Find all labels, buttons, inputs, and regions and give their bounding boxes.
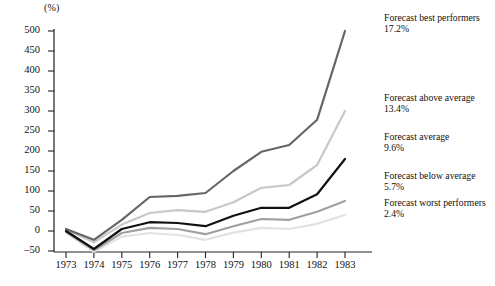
- legend-item-value: 5.7%: [384, 181, 475, 192]
- legend-item-value: 2.4%: [384, 208, 486, 219]
- legend-item-value: 9.6%: [384, 142, 449, 153]
- series-line-0: [66, 31, 345, 240]
- y-axis-ticks: [48, 31, 54, 251]
- legend-item: Forecast worst performers2.4%: [384, 197, 486, 220]
- legend-item: Forecast best performers17.2%: [384, 12, 480, 35]
- y-axis-tick-label: 0: [6, 224, 40, 235]
- y-axis-tick-label: 450: [6, 44, 40, 55]
- legend-item-label: Forecast best performers: [384, 12, 480, 23]
- y-axis-tick-label: 250: [6, 124, 40, 135]
- y-axis-tick-label: –50: [6, 244, 40, 255]
- chart-axes: [54, 29, 372, 252]
- y-axis-tick-label: 350: [6, 84, 40, 95]
- y-axis-tick-label: 200: [6, 144, 40, 155]
- y-axis-tick-label: 500: [6, 24, 40, 35]
- series-line-2: [66, 159, 345, 249]
- legend-item-label: Forecast average: [384, 131, 449, 142]
- legend-item-label: Forecast below average: [384, 170, 475, 181]
- legend-item-value: 13.4%: [384, 103, 475, 114]
- legend-item-label: Forecast worst performers: [384, 197, 486, 208]
- legend-item: Forecast below average5.7%: [384, 170, 475, 193]
- y-axis-tick-label: 100: [6, 184, 40, 195]
- x-axis-ticks: [66, 252, 345, 258]
- legend-item: Forecast average9.6%: [384, 131, 449, 154]
- series-line-1: [66, 111, 345, 242]
- chart-container: (%) 500450400350300250200150100500–50 19…: [0, 0, 495, 286]
- x-axis-tick-label: 1983: [325, 259, 365, 270]
- y-axis-tick-label: 150: [6, 164, 40, 175]
- legend-item: Forecast above average13.4%: [384, 92, 475, 115]
- y-axis-tick-label: 50: [6, 204, 40, 215]
- chart-series-lines: [66, 31, 345, 252]
- y-axis-tick-label: 400: [6, 64, 40, 75]
- y-axis-tick-label: 300: [6, 104, 40, 115]
- legend-item-value: 17.2%: [384, 23, 480, 34]
- legend-item-label: Forecast above average: [384, 92, 475, 103]
